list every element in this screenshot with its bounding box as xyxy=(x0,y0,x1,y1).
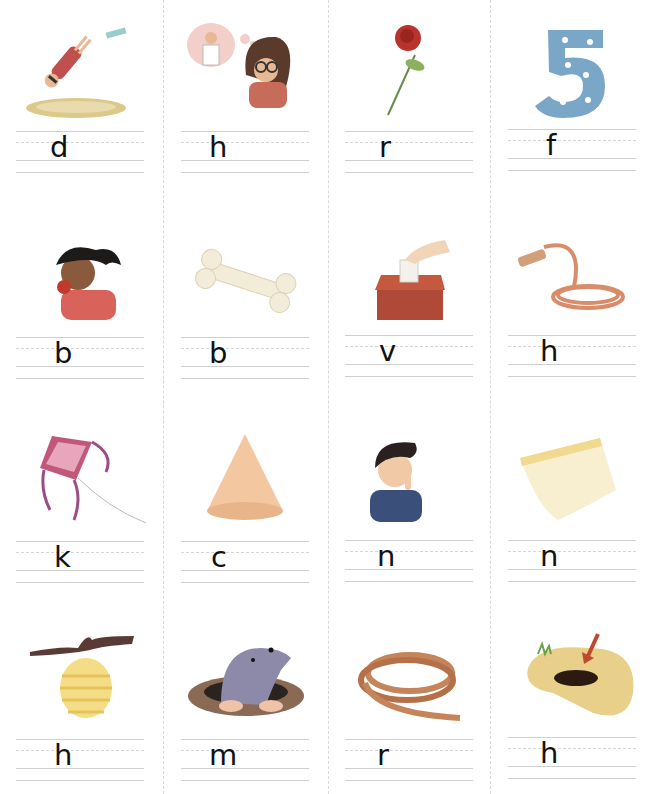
starting-letter: c xyxy=(211,543,227,571)
starting-letter: m xyxy=(209,741,237,769)
starting-letter: h xyxy=(209,133,227,161)
starting-letter: h xyxy=(540,739,558,767)
handwriting-lines: f xyxy=(508,129,636,171)
starting-letter: k xyxy=(54,543,71,571)
starting-letter: n xyxy=(377,542,395,570)
bone-picture xyxy=(181,225,311,325)
handwriting-lines: b xyxy=(181,337,309,379)
mole-picture xyxy=(181,628,311,728)
starting-letter: h xyxy=(540,337,558,365)
girl-biting-apple-picture xyxy=(16,225,146,325)
handwriting-lines: h xyxy=(508,737,636,779)
starting-letter: d xyxy=(50,133,68,161)
handwriting-lines: m xyxy=(181,739,309,781)
starting-letter: r xyxy=(377,741,389,769)
column-separator xyxy=(490,0,491,794)
handwriting-lines: r xyxy=(345,131,473,173)
rope-picture xyxy=(345,628,475,728)
boy-pointing-nose-picture xyxy=(345,428,475,528)
hole-in-ground-picture xyxy=(508,628,638,728)
handwriting-lines: b xyxy=(16,337,144,379)
starting-letter: v xyxy=(379,337,396,365)
handwriting-lines: h xyxy=(508,335,636,377)
handwriting-lines: n xyxy=(345,540,473,582)
number-five-picture xyxy=(508,20,638,120)
ballot-box-picture xyxy=(345,225,475,325)
column-separator xyxy=(163,0,164,794)
starting-letter: r xyxy=(379,133,391,161)
handwriting-lines: v xyxy=(345,335,473,377)
starting-letter: b xyxy=(209,339,227,367)
rose-picture xyxy=(345,20,475,120)
handwriting-lines: r xyxy=(345,739,473,781)
starting-letter: b xyxy=(54,339,72,367)
garden-hose-picture xyxy=(508,225,638,325)
handwriting-lines: d xyxy=(16,131,144,173)
cone-picture xyxy=(181,428,311,528)
handwriting-lines: h xyxy=(181,131,309,173)
column-separator xyxy=(328,0,329,794)
starting-letter: h xyxy=(54,741,72,769)
handwriting-lines: c xyxy=(181,541,309,583)
note-paper-picture xyxy=(508,428,638,528)
handwriting-lines: n xyxy=(508,540,636,582)
girl-dreaming-picture xyxy=(181,20,311,120)
handwriting-lines: h xyxy=(16,739,144,781)
kite-picture xyxy=(16,428,146,528)
starting-letter: f xyxy=(546,131,556,159)
diver-picture xyxy=(16,20,146,120)
beehive-picture xyxy=(16,628,146,728)
starting-letter: n xyxy=(540,542,558,570)
handwriting-lines: k xyxy=(16,541,144,583)
